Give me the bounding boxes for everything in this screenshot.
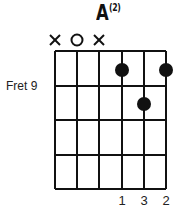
finger-number: 3 bbox=[140, 193, 147, 208]
finger-number: 1 bbox=[118, 193, 125, 208]
muted-string-icon bbox=[50, 35, 60, 45]
finger-dot bbox=[115, 63, 129, 77]
fretboard-grid bbox=[55, 51, 166, 189]
finger-dot bbox=[137, 97, 151, 111]
chord-diagram bbox=[0, 0, 188, 213]
muted-string-icon bbox=[94, 35, 104, 45]
open-string-icon bbox=[72, 35, 83, 46]
string-markers bbox=[50, 35, 104, 46]
finger-dot bbox=[159, 63, 173, 77]
finger-number: 2 bbox=[162, 193, 169, 208]
